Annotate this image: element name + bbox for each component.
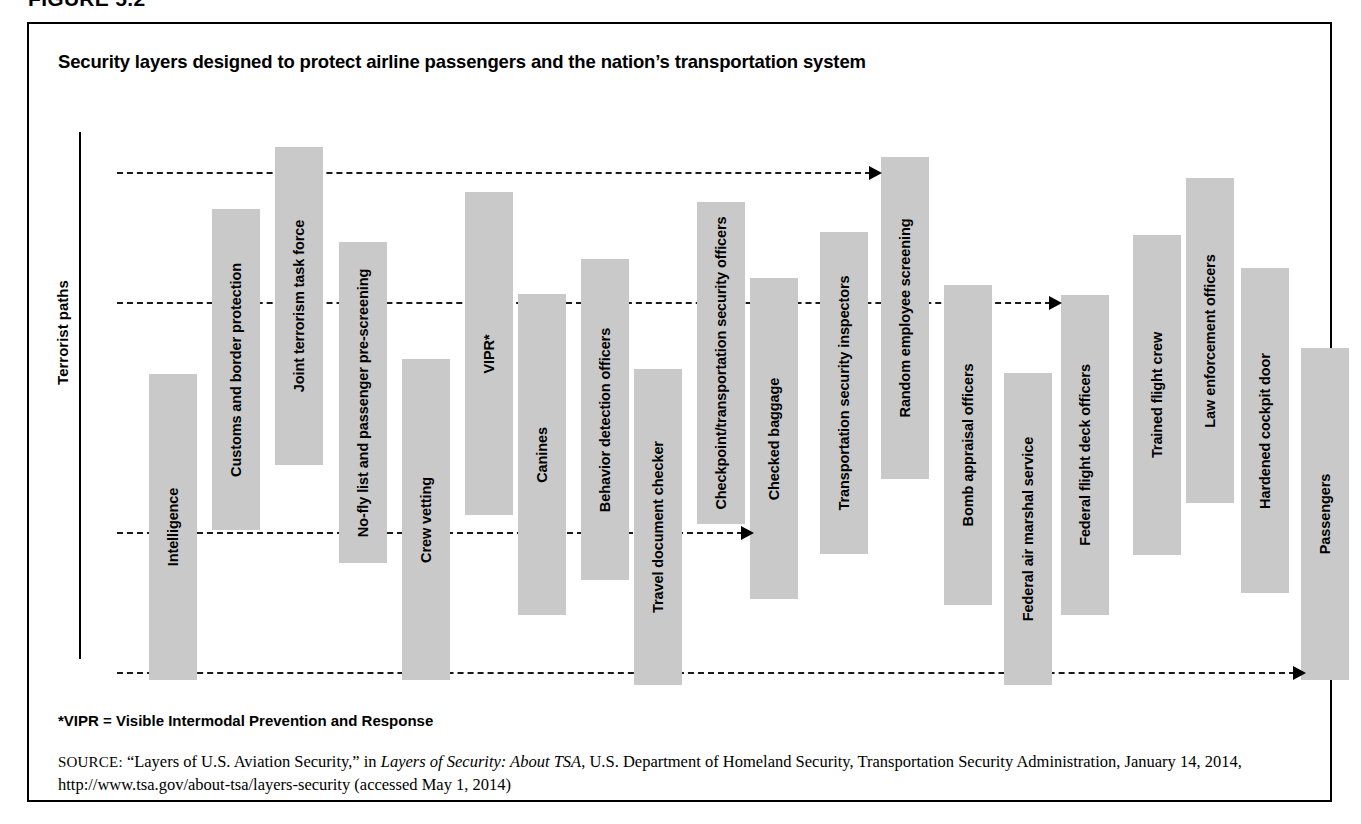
security-layer-bar-label: Random employee screening [897,219,913,418]
security-layer-bar-label: No-fly list and passenger pre-screening [355,268,371,536]
security-layer-bar-label: Trained flight crew [1149,332,1165,458]
security-layer-bar: Federal air marshal service [1004,373,1052,685]
security-layer-bar: Customs and border protection [212,209,260,530]
security-layer-bar: Trained flight crew [1133,235,1181,555]
terrorist-path-line [117,172,871,174]
vertical-axis [79,132,81,659]
terrorist-path-line [117,672,1295,674]
security-layer-bar-label: Intelligence [165,488,181,567]
security-layer-bar-label: Customs and border protection [228,263,244,477]
security-layer-bar-label: Joint terrorism task force [291,220,307,392]
security-layer-bar: Behavior detection officers [581,259,629,580]
source-title-italic: Layers of Security: About TSA [381,752,581,771]
y-axis-label: Terrorist paths [54,268,71,398]
security-layer-bar: Checked baggage [750,278,798,599]
security-layer-bar: Random employee screening [881,157,929,479]
figure-number: FIGURE 5.2 [28,0,145,11]
security-layer-bar-label: Transportation security inspectors [836,275,852,510]
security-layer-bar: Travel document checker [634,369,682,685]
terrorist-path-arrowhead [741,526,754,540]
security-layer-bar-label: VIPR* [481,334,497,373]
security-layer-bar-label: Hardened cockpit door [1257,353,1273,509]
source-keyword: SOURCE: [58,754,123,770]
source-text-part1: “Layers of U.S. Aviation Security,” in [123,752,381,771]
security-layer-bar: Passengers [1301,348,1349,680]
security-layer-bar-label: Law enforcement officers [1202,254,1218,427]
security-layer-bar: Joint terrorism task force [275,147,323,465]
figure-footnote: *VIPR = Visible Intermodal Prevention an… [58,712,433,729]
figure-frame: Security layers designed to protect airl… [27,22,1332,802]
security-layer-bar-label: Crew vetting [418,477,434,563]
security-layer-bar-label: Federal flight deck officers [1077,364,1093,546]
figure-source-note: SOURCE: “Layers of U.S. Aviation Securit… [58,750,1288,797]
security-layer-bar-label: Checkpoint/transportation security offic… [713,216,729,509]
security-layer-bar: Intelligence [149,374,197,680]
security-layer-bar-label: Behavior detection officers [597,327,613,511]
security-layer-bar: Bomb appraisal officers [944,285,992,605]
security-layer-bar-label: Passengers [1317,474,1333,554]
security-layer-bar-label: Travel document checker [650,441,666,613]
security-layer-bar: Canines [518,294,566,615]
security-layer-bar: Hardened cockpit door [1241,268,1289,593]
security-layer-bar: No-fly list and passenger pre-screening [339,242,387,563]
terrorist-path-arrowhead [1293,666,1306,680]
security-layer-bar: Crew vetting [402,359,450,680]
security-layer-bar-label: Bomb appraisal officers [960,364,976,527]
security-layer-bar: Checkpoint/transportation security offic… [697,202,745,524]
security-layer-bar: Transportation security inspectors [820,232,868,554]
security-layer-bar: VIPR* [465,192,513,515]
security-layer-bar-label: Checked baggage [766,377,782,500]
chart-plot-area: Terrorist paths IntelligenceCustoms and … [29,24,1334,804]
terrorist-path-arrowhead [1049,296,1062,310]
terrorist-path-arrowhead [869,166,882,180]
security-layer-bar-label: Federal air marshal service [1020,437,1036,621]
security-layer-bar: Federal flight deck officers [1061,295,1109,615]
security-layer-bar-label: Canines [534,427,550,483]
security-layer-bar: Law enforcement officers [1186,178,1234,503]
